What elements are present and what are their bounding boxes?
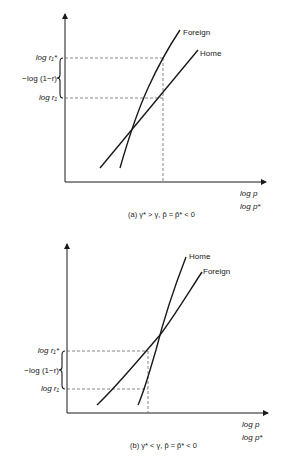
x-label-log-p: log p: [242, 421, 259, 429]
foreign-curve-label: Foreign: [183, 29, 210, 37]
caption-b: (b) γ* < γ, p̂ = p̂* < 0: [130, 442, 197, 450]
y-label-neg-log-1-minus-r: −log (1−r): [24, 367, 59, 375]
home-curve-label: Home: [189, 253, 210, 261]
y-label-log-r1: log r₁: [39, 94, 57, 102]
panel-a: [57, 14, 266, 182]
x-label-log-p: log p: [240, 190, 257, 198]
caption-a: (a) γ* > γ, p̂ = p̂* < 0: [128, 211, 195, 219]
panel-b: [59, 244, 268, 413]
home-curve-label: Home: [200, 50, 221, 58]
home-curve: [100, 50, 198, 168]
home-curve: [138, 257, 186, 405]
brace: [57, 58, 63, 98]
y-label-log-r1-star: log r₁*: [36, 54, 57, 62]
x-label-log-p-star: log p*: [240, 203, 260, 211]
foreign-curve: [97, 272, 202, 405]
y-label-log-r1: log r₁: [41, 385, 59, 393]
y-label-neg-log-1-minus-r: −log (1−r): [22, 75, 57, 83]
x-label-log-p-star: log p*: [242, 434, 262, 442]
foreign-curve: [120, 30, 180, 168]
brace: [59, 351, 65, 389]
y-label-log-r1-star: log r₁*: [38, 347, 59, 355]
foreign-curve-label: Foreign: [203, 268, 230, 276]
